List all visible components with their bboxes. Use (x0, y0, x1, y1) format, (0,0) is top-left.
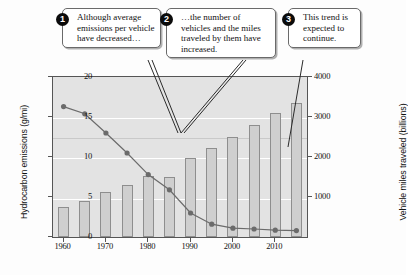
callout-1: 1 Although average emissions per vehicle… (62, 8, 161, 48)
callout-2-badge: 2 (160, 13, 173, 26)
y-left-tickmark (48, 76, 52, 77)
x-tickmark (63, 238, 64, 242)
y-right-tick-4000: 4000 (314, 71, 358, 81)
y-right-tickmark (308, 76, 312, 77)
y-right-tickmark (308, 156, 312, 157)
x-tick-2010: 2010 (254, 241, 294, 251)
callout-3-badge: 3 (282, 13, 295, 26)
x-tick-1960: 1960 (43, 241, 83, 251)
emissions-point-1970 (103, 130, 108, 135)
emissions-point-2015 (294, 228, 299, 233)
y-left-tick-20: 20 (52, 71, 92, 81)
x-tickmark (147, 238, 148, 242)
y-right-tickmark (308, 116, 312, 117)
y-left-tick-15: 15 (52, 111, 92, 121)
x-tickmark (190, 238, 191, 242)
y-left-tick-10: 10 (52, 151, 92, 161)
x-tickmark (232, 238, 233, 242)
y-left-tickmark (48, 196, 52, 197)
y-left-tickmark (48, 116, 52, 117)
x-tick-1990: 1990 (170, 241, 210, 251)
emissions-point-2010 (273, 228, 278, 233)
emissions-point-1975 (124, 150, 129, 155)
callout-2-text: …the number of vehicles and the miles tr… (181, 12, 261, 54)
x-tickmark (105, 238, 106, 242)
emissions-point-1990 (188, 210, 193, 215)
y-left-tickmark (48, 156, 52, 157)
emissions-point-2000 (230, 226, 235, 231)
y-left-tick-0: 0 (52, 231, 92, 241)
emissions-point-1960 (61, 104, 66, 109)
emissions-line-path (64, 107, 297, 231)
y-right-tick-2000: 2000 (314, 151, 358, 161)
y-left-tick-5: 5 (52, 191, 92, 201)
y-right-tick-3000: 3000 (314, 111, 358, 121)
x-tick-1980: 1980 (127, 241, 167, 251)
y-axis-left-label: Hydrocarbon emissions (g/mi) (19, 82, 29, 242)
callout-3-text: This trend is expected to continue. (303, 12, 348, 43)
emissions-point-1980 (146, 172, 151, 177)
x-tickmark (274, 238, 275, 242)
y-axis-right-label: Vehicle miles traveled (billions) (398, 77, 408, 247)
x-tick-1970: 1970 (85, 241, 125, 251)
callout-1-text: Although average emissions per vehicle h… (77, 12, 154, 43)
y-right-tick-1000: 1000 (314, 191, 358, 201)
callout-3: 3 This trend is expected to continue. (288, 8, 361, 48)
emissions-point-1985 (167, 187, 172, 192)
y-left-tickmark (48, 236, 52, 237)
emissions-point-1995 (209, 222, 214, 227)
callout-2: 2 …the number of vehicles and the miles … (166, 8, 276, 58)
callout-1-badge: 1 (56, 13, 69, 26)
y-right-tickmark (308, 196, 312, 197)
x-tick-2000: 2000 (212, 241, 252, 251)
emissions-point-2005 (251, 226, 256, 231)
